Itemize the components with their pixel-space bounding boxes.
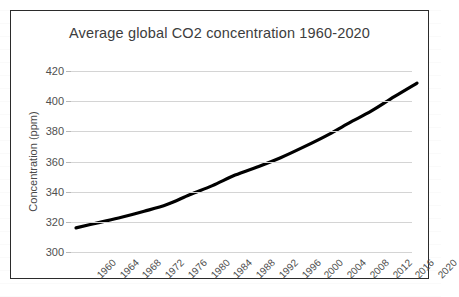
y-axis-tick-label: 400 (46, 95, 64, 107)
chart-title: Average global CO2 concentration 1960-20… (11, 25, 428, 41)
x-axis-tick-label: 2020 (436, 257, 459, 281)
y-axis-tick-mark (66, 222, 71, 223)
y-axis-tick-mark (66, 71, 71, 72)
x-axis-tick-labels: 1960196419681972197619801984198819921996… (71, 257, 421, 297)
x-axis-tick-label: 1980 (208, 257, 232, 281)
plot-area: 420400380360340320300 (71, 61, 421, 252)
y-axis-tick-mark (66, 131, 71, 132)
gridline (71, 252, 412, 253)
x-axis-tick-label: 1988 (254, 257, 278, 281)
x-axis-tick-label: 1968 (140, 257, 164, 281)
y-axis-tick-mark (66, 252, 71, 253)
gridline (71, 101, 412, 102)
y-axis-tick-label: 420 (46, 65, 64, 77)
gridline (71, 162, 412, 163)
chart-frame: Average global CO2 concentration 1960-20… (10, 10, 429, 279)
gridline (71, 222, 412, 223)
y-axis-tick-mark (66, 101, 71, 102)
y-axis-tick-mark (66, 192, 71, 193)
x-axis-tick-label: 1996 (299, 257, 323, 281)
x-axis-tick-label: 2004 (345, 257, 369, 281)
x-axis-tick-label: 2016 (413, 257, 437, 281)
x-axis-tick-label: 2008 (367, 257, 391, 281)
x-axis-tick-label: 1992 (276, 257, 300, 281)
y-axis-tick-label: 340 (46, 186, 64, 198)
gridline (71, 131, 412, 132)
x-axis-tick-label: 1972 (163, 257, 187, 281)
y-axis-tick-label: 360 (46, 156, 64, 168)
y-axis-tick-mark (66, 162, 71, 163)
x-axis-tick-label: 1984 (231, 257, 255, 281)
co2-line-series (71, 61, 421, 252)
x-axis-tick-label: 1964 (117, 257, 141, 281)
gridline (71, 71, 412, 72)
x-axis-tick-label: 2000 (322, 257, 346, 281)
y-axis-title: Concentration (ppm) (27, 71, 41, 252)
x-axis-tick-label: 1960 (95, 257, 119, 281)
x-axis-tick-label: 2012 (390, 257, 414, 281)
gridline (71, 192, 412, 193)
x-axis-tick-label: 1976 (185, 257, 209, 281)
co2-trend-line (76, 83, 417, 228)
y-axis-tick-label: 300 (46, 246, 64, 258)
y-axis-tick-label: 320 (46, 216, 64, 228)
y-axis-tick-label: 380 (46, 125, 64, 137)
